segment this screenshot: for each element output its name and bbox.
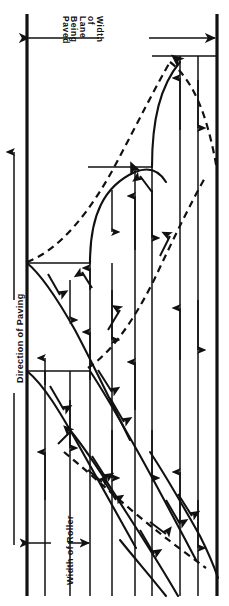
lane-width-label-line-5: Paved — [62, 16, 71, 44]
lane-width-label-line-3: Lane — [79, 16, 88, 44]
direction-of-paving-label: Direction of Paving — [16, 293, 25, 383]
lane-width-label-line-1: Width — [96, 16, 105, 44]
lane-width-label-line-4: Being — [70, 16, 79, 44]
lane-width-label: Width of Lane Being Paved — [62, 16, 105, 44]
rolling-pattern-diagram — [0, 0, 229, 606]
roller-width-label: Width of Roller — [66, 515, 75, 585]
diagram-background — [0, 0, 229, 606]
